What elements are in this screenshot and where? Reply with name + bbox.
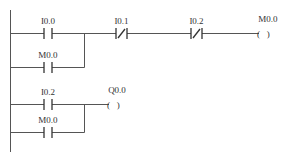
- coil-m0-0[interactable]: ( ) M0.0: [257, 14, 278, 39]
- contact-label: I0.1: [114, 16, 128, 26]
- contact-label: I0.2: [189, 16, 203, 26]
- coil-icon: ( ): [107, 100, 120, 110]
- ladder-diagram: I0.0 M0.0 I0.1 I0.2 ( ) M0.0: [0, 0, 281, 157]
- coil-q0-0[interactable]: ( ) Q0.0: [107, 85, 126, 110]
- coil-label: M0.0: [258, 14, 278, 24]
- contact-i0-0[interactable]: I0.0: [41, 16, 56, 39]
- rung-2: I0.2 M0.0 ( ) Q0.0: [10, 85, 126, 138]
- contact-m0-0-rung2-branch[interactable]: M0.0: [38, 115, 58, 138]
- contact-label: M0.0: [38, 50, 58, 60]
- contact-i0-1[interactable]: I0.1: [114, 16, 128, 39]
- contact-label: I0.0: [41, 16, 56, 26]
- contact-i0-2[interactable]: I0.2: [189, 16, 203, 39]
- coil-label: Q0.0: [108, 85, 126, 95]
- rung-1: I0.0 M0.0 I0.1 I0.2 ( ) M0.0: [10, 14, 278, 73]
- contact-nc-slash: [193, 29, 200, 38]
- contact-i0-2-rung2[interactable]: I0.2: [41, 87, 55, 110]
- coil-icon: ( ): [257, 29, 270, 39]
- contact-m0-0-branch[interactable]: M0.0: [38, 50, 58, 73]
- contact-nc-slash: [118, 29, 125, 38]
- contact-label: I0.2: [41, 87, 55, 97]
- contact-label: M0.0: [38, 115, 58, 125]
